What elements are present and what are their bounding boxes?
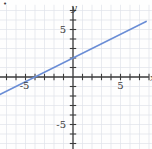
x-axis-label: x: [150, 72, 152, 83]
x-tick-label: -5: [20, 80, 30, 91]
coordinate-plane-plot: -555-5xy•: [0, 0, 152, 149]
x-tick-label: 5: [117, 80, 123, 91]
y-tick-label: -5: [56, 119, 66, 130]
bullet-marker: •: [3, 0, 7, 8]
y-tick-label: 5: [60, 24, 66, 35]
graph-figure: -555-5xy•: [0, 0, 152, 149]
axes: [0, 7, 149, 149]
y-axis-label: y: [70, 2, 77, 13]
